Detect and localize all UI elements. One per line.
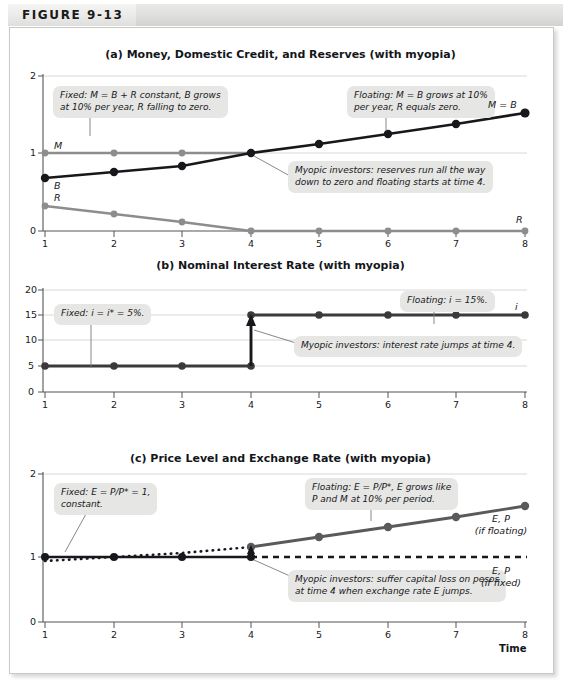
panel-c-xtick-4: 4 bbox=[245, 629, 257, 640]
panel-c-point-fixed bbox=[41, 553, 49, 561]
panel-c-leader-line bbox=[254, 560, 290, 576]
panel-c-xtick-7: 7 bbox=[450, 629, 462, 640]
panel-c-point-fixed bbox=[178, 553, 186, 561]
panel-c-xtick-2: 2 bbox=[108, 629, 120, 640]
panel-c-xtick-5: 5 bbox=[313, 629, 325, 640]
panel-c-label-floating: E, P(if floating) bbox=[462, 513, 540, 536]
panel-c-xaxis-label: Time bbox=[499, 643, 526, 654]
panel-c-point-floating bbox=[315, 533, 323, 541]
panel-c-ytick-2: 2 bbox=[27, 468, 39, 479]
panel-c-series-shadow-dotted bbox=[45, 547, 251, 561]
panel-c-xtick-8: 8 bbox=[519, 629, 531, 640]
panel-c-leader-line bbox=[65, 514, 86, 552]
panel-c-callout-floating: Floating: E = P/P*, E grows likeP and M … bbox=[305, 478, 458, 510]
panel-c-xtick-6: 6 bbox=[382, 629, 394, 640]
panel-c-xtick-1: 1 bbox=[39, 629, 51, 640]
panel-c-label-fixed: E, P(if fixed) bbox=[462, 565, 540, 588]
panel-c-point-floating bbox=[384, 523, 392, 531]
panel-c-point-floating bbox=[452, 513, 460, 521]
panel-c-ytick-1: 1 bbox=[27, 551, 39, 562]
figure-page: FIGURE 9-13 (a) Money, Domestic Credit, … bbox=[0, 0, 571, 682]
panel-c-point-floating bbox=[521, 502, 529, 510]
panel-c-xtick-3: 3 bbox=[176, 629, 188, 640]
panel-c-point-fixed bbox=[110, 553, 118, 561]
panel-c-callout-fixed-text: Fixed: E = P/P* = 1,constant. bbox=[61, 487, 150, 510]
panel-c-callout-floating-text: Floating: E = P/P*, E grows likeP and M … bbox=[312, 482, 451, 505]
panel-c-callout-fixed: Fixed: E = P/P* = 1,constant. bbox=[54, 483, 157, 515]
panel-c-ytick-0: 0 bbox=[27, 616, 39, 627]
